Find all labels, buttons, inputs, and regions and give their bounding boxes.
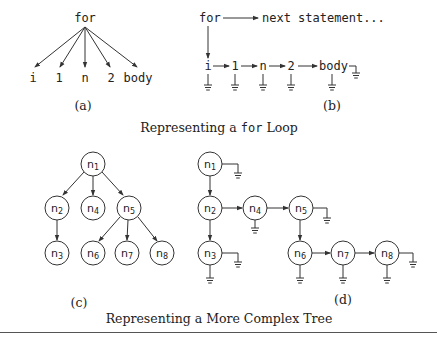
c-node-n3: n3 — [45, 241, 69, 265]
a-root-for: for — [74, 11, 96, 25]
panel-d-label: (d) — [334, 292, 352, 307]
c-node-n2: n2 — [45, 196, 69, 220]
ground-icon — [231, 74, 239, 90]
b-child: body — [319, 59, 348, 73]
ground-icon — [251, 220, 259, 233]
d-node-n6: n6 — [288, 241, 312, 265]
caption-for-loop: Representing a for Loop — [140, 120, 298, 135]
ground-icon — [259, 74, 267, 90]
caption-complex-tree: Representing a More Complex Tree — [106, 311, 333, 326]
ground-icon — [287, 74, 295, 90]
ground-icon — [222, 164, 242, 178]
panel-c: n1 n2 n4 n5 n3 n6 n7 n8 (c) — [45, 152, 174, 310]
d-node-n5: n5 — [289, 196, 313, 220]
a-child: body — [124, 71, 153, 85]
b-root-for: for — [199, 11, 221, 25]
d-node-n2: n2 — [198, 196, 222, 220]
b-child: i — [204, 59, 211, 73]
ground-icon — [206, 265, 214, 283]
a-edge — [35, 27, 85, 67]
c-node-n6: n6 — [81, 241, 105, 265]
ground-icon — [339, 265, 347, 283]
c-node-n8: n8 — [150, 241, 174, 265]
ground-icon — [383, 265, 391, 283]
caption-suffix: Loop — [262, 120, 297, 135]
ground-icon — [399, 253, 417, 267]
ground-icon — [328, 74, 336, 90]
a-edge — [85, 27, 110, 67]
b-child: n — [259, 59, 266, 73]
c-edge — [99, 217, 120, 241]
panel-a: for i 1 n 2 body (a) — [29, 11, 152, 113]
c-node-n5: n5 — [117, 196, 141, 220]
figure-canvas: for i 1 n 2 body (a) for next statement.… — [0, 0, 437, 344]
b-child: 1 — [231, 59, 238, 73]
divider-rule — [0, 332, 437, 333]
c-edge — [138, 217, 157, 241]
ground-icon — [296, 265, 304, 283]
b-next-statement: next statement... — [262, 11, 385, 25]
a-child: 2 — [107, 71, 114, 85]
ground-icon — [313, 208, 331, 223]
c-node-n1: n1 — [81, 152, 105, 176]
tree-diagrams: for i 1 n 2 body (a) for next statement.… — [0, 0, 437, 344]
a-child: i — [29, 71, 36, 85]
b-child: 2 — [287, 59, 294, 73]
panel-c-label: (c) — [71, 295, 88, 310]
panel-b: for next statement... i 1 n 2 body (b) — [199, 11, 385, 113]
ground-icon — [349, 66, 360, 78]
d-node-n7: n7 — [331, 241, 355, 265]
d-node-n1: n1 — [198, 152, 222, 176]
d-node-n4: n4 — [243, 196, 267, 220]
panel-d: n1 n2 n4 n5 n3 n6 n7 n8 (d) — [198, 152, 417, 307]
c-node-n4: n4 — [81, 196, 105, 220]
ground-icon — [204, 74, 212, 90]
a-edge — [60, 27, 85, 67]
a-child: n — [81, 71, 88, 85]
d-node-n8: n8 — [375, 241, 399, 265]
c-edge — [63, 172, 84, 195]
ground-icon — [222, 253, 242, 267]
panel-a-label: (a) — [74, 98, 91, 113]
a-child: 1 — [55, 71, 62, 85]
panel-b-label: (b) — [323, 98, 341, 113]
c-node-n7: n7 — [115, 241, 139, 265]
c-edge — [127, 220, 128, 240]
caption-prefix: Representing a — [140, 120, 241, 135]
c-edge — [102, 172, 123, 195]
caption-code: for — [241, 121, 263, 135]
a-edge — [85, 27, 137, 67]
d-node-n3: n3 — [198, 241, 222, 265]
